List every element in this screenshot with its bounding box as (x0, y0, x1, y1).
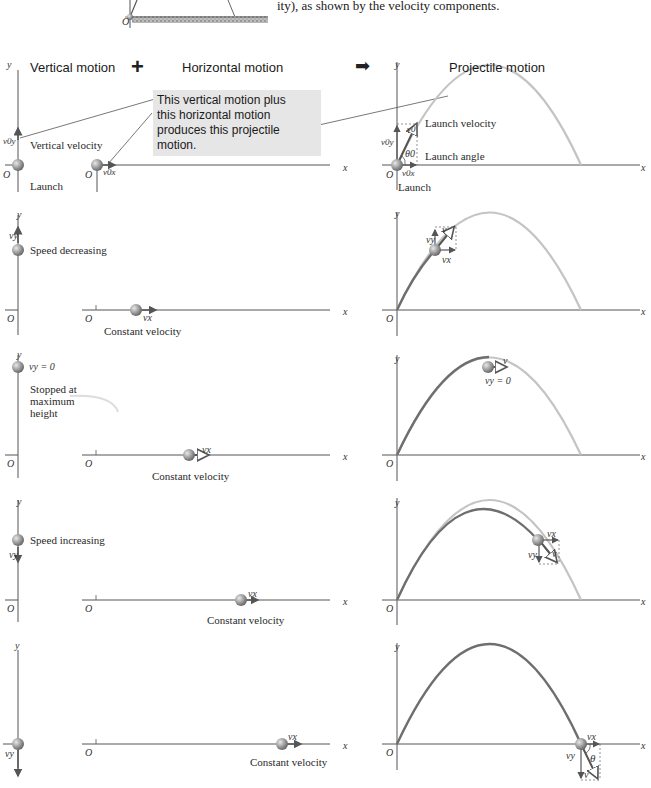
row3-proj-origin: O (386, 458, 393, 469)
row3-stopped-line-1: Stopped at (30, 383, 77, 395)
row1-launch-label: Launch (30, 180, 63, 192)
row1-vert-y-label: y (7, 59, 11, 70)
row5-proj-v-symbol: v (584, 769, 588, 780)
row4-horiz-x-label: x (343, 596, 347, 607)
row1-vertical-velocity-label: Vertical velocity (30, 139, 102, 151)
row1-proj-launch-label: Launch (398, 181, 431, 193)
row-5-projectile (382, 643, 640, 780)
row4-vy-symbol: vy (9, 549, 18, 560)
row3-constant-velocity-label: Constant velocity (152, 470, 229, 482)
row4-vx-symbol: vx (248, 588, 257, 599)
row1-vert-x-label: x (343, 162, 347, 173)
callout-line-2: this horizontal motion (157, 108, 315, 123)
row3-vert-origin: O (7, 458, 14, 469)
top-origin-label: O (122, 16, 129, 27)
row4-speed-increasing-label: Speed increasing (30, 534, 105, 546)
row4-vert-y-label: y (17, 496, 21, 507)
row1-proj-x-label: x (641, 162, 645, 173)
row2-proj-vy-symbol: vy (426, 234, 435, 245)
row-1-horizontal (91, 159, 330, 192)
row2-proj-v-symbol: v (442, 224, 446, 235)
row1-proj-v0y-symbol: v0y (381, 137, 394, 147)
row1-v0-symbol: v0 (407, 124, 416, 134)
row4-proj-y-label: y (395, 497, 399, 508)
row5-proj-theta-symbol: θ (590, 752, 595, 764)
row1-v0x-symbol: v0x (103, 167, 116, 177)
row2-vy-symbol: vy (9, 230, 18, 241)
row3-stopped-line-3: height (30, 407, 77, 419)
row3-horiz-origin: O (85, 458, 92, 469)
callout-line-3: produces this projectile motion. (157, 123, 315, 153)
top-fragment (125, 0, 268, 28)
row-4-projectile (382, 498, 640, 625)
row4-proj-vx-symbol: vx (547, 528, 556, 539)
callout-line-1: This vertical motion plus (157, 93, 315, 108)
row-2-horizontal (82, 304, 330, 316)
row1-launch-angle-label: Launch angle (425, 150, 485, 162)
row3-vx-symbol: vx (202, 444, 211, 455)
row5-proj-y-label: y (395, 641, 399, 652)
row1-vert-origin: O (3, 169, 10, 180)
row5-horiz-x-label: x (343, 740, 347, 751)
row5-vy-symbol: vy (5, 748, 14, 759)
row3-vy-zero-label: vy = 0 (29, 361, 55, 372)
header-horizontal-motion: Horizontal motion (182, 60, 283, 75)
header-projectile-motion: Projectile motion (449, 60, 545, 75)
plus-icon: + (131, 54, 144, 80)
row5-proj-vy-symbol: vy (566, 750, 575, 761)
row3-stopped-line-2: maximum (30, 395, 77, 407)
row3-proj-x-label: x (641, 451, 645, 462)
row2-vert-y-label: y (17, 209, 21, 220)
row4-proj-v-symbol: v (552, 548, 556, 559)
row2-speed-decreasing-label: Speed decreasing (30, 244, 107, 256)
row1-v0y-symbol: v0y (3, 136, 16, 146)
row-2-projectile (382, 212, 640, 336)
callout-box: This vertical motion plus this horizonta… (153, 90, 321, 156)
row3-horiz-x-label: x (343, 451, 347, 462)
row-3-projectile (382, 355, 640, 481)
row2-horiz-x-label: x (343, 306, 347, 317)
row2-horiz-origin: O (85, 313, 92, 324)
row4-proj-origin: O (386, 603, 393, 614)
row1-theta0-symbol: θ0 (405, 148, 415, 159)
row1-proj-v0x-symbol: v0x (402, 168, 415, 178)
row5-horiz-origin: O (85, 747, 92, 758)
right-arrow-icon: ➡ (355, 55, 370, 77)
row4-horiz-origin: O (85, 603, 92, 614)
row2-proj-vx-symbol: vx (442, 254, 451, 265)
row4-proj-vy-symbol: vy (528, 549, 537, 560)
row3-stopped-label: Stopped at maximum height (30, 383, 77, 419)
row5-proj-origin: O (386, 747, 393, 758)
row-4-horizontal (82, 594, 330, 606)
row4-constant-velocity-label: Constant velocity (207, 614, 284, 626)
row2-vx-symbol: vx (143, 312, 152, 323)
row5-vx-symbol: vx (288, 731, 297, 742)
row4-proj-x-label: x (641, 596, 645, 607)
row-1-projectile (382, 62, 640, 190)
diagram-graphics (0, 0, 651, 788)
row5-proj-vx-symbol: vx (587, 731, 596, 742)
row2-vert-origin: O (7, 313, 14, 324)
row1-horiz-origin: O (85, 169, 92, 180)
row4-vert-origin: O (7, 603, 14, 614)
row3-vert-y-label: y (17, 349, 21, 360)
row2-proj-origin: O (386, 313, 393, 324)
row1-proj-origin: O (386, 169, 393, 180)
row3-proj-y-label: y (395, 353, 399, 364)
row1-proj-y-label: y (395, 59, 399, 70)
row2-proj-y-label: y (395, 208, 399, 219)
row1-launch-velocity-label: Launch velocity (425, 117, 496, 129)
row5-proj-x-label: x (641, 740, 645, 751)
row3-proj-vy-zero: vy = 0 (485, 375, 511, 386)
header-vertical-motion: Vertical motion (30, 60, 115, 75)
row3-proj-v-symbol: v (503, 355, 507, 366)
row5-constant-velocity-label: Constant velocity (250, 756, 327, 768)
row5-vert-y-label: y (15, 640, 19, 651)
caption-tail: ity), as shown by the velocity component… (277, 0, 499, 14)
row2-proj-x-label: x (641, 306, 645, 317)
row2-constant-velocity-label: Constant velocity (104, 325, 181, 337)
